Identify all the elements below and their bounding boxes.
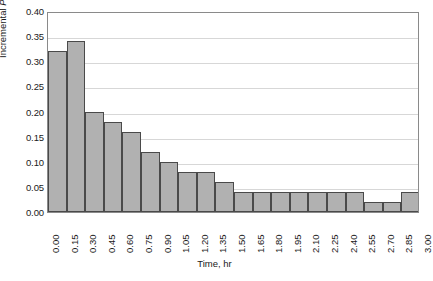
x-axis-tick-label: 2.10 xyxy=(311,235,321,254)
bar xyxy=(178,172,197,212)
y-axis-title-pre: Incremental xyxy=(0,6,8,58)
plot-area xyxy=(47,12,419,213)
x-axis-tick-label: 0.00 xyxy=(51,235,61,254)
bar xyxy=(271,192,290,212)
bar xyxy=(104,122,123,212)
x-axis-tick-label: 1.20 xyxy=(200,235,210,254)
x-axis-title: Time, hr xyxy=(0,258,429,269)
x-axis-tick-label: 0.15 xyxy=(70,235,80,254)
bar xyxy=(85,112,104,213)
bar xyxy=(401,192,419,212)
x-axis-tick-label: 2.70 xyxy=(386,235,396,254)
bar xyxy=(364,202,383,212)
x-axis-tick-label: 1.65 xyxy=(256,235,266,254)
bar xyxy=(383,202,402,212)
bar xyxy=(327,192,346,212)
y-axis-tick-label: 0.25 xyxy=(2,82,44,92)
y-axis-tick-label: 0.40 xyxy=(2,7,44,17)
x-axis-tick-label: 0.60 xyxy=(125,235,135,254)
y-axis-tick-label: 0.35 xyxy=(2,32,44,42)
bar xyxy=(234,192,253,212)
x-axis-tick-label: 1.35 xyxy=(218,235,228,254)
bar xyxy=(253,192,272,212)
y-axis-tick-label: 0.20 xyxy=(2,108,44,118)
x-axis-tick-label: 0.75 xyxy=(144,235,154,254)
bar xyxy=(160,162,179,212)
bar-series xyxy=(48,13,418,212)
bar xyxy=(215,182,234,212)
x-axis-tick-label: 0.45 xyxy=(107,235,117,254)
x-axis-tick-label: 1.95 xyxy=(293,235,303,254)
y-axis-tick-label: 0.05 xyxy=(2,183,44,193)
x-axis-tick-label: 1.80 xyxy=(274,235,284,254)
bar xyxy=(122,132,141,212)
y-axis-title: Incremental P, in. xyxy=(0,0,8,58)
y-axis-tick-label: 0.10 xyxy=(2,158,44,168)
x-axis-tick-label: 1.50 xyxy=(237,235,247,254)
y-axis-tick-label: 0.00 xyxy=(2,208,44,218)
bar xyxy=(67,41,86,212)
x-axis-tick-label: 2.85 xyxy=(404,235,414,254)
x-axis-tick-label: 0.90 xyxy=(163,235,173,254)
bar xyxy=(197,172,216,212)
bar xyxy=(346,192,365,212)
x-axis-tick-label: 0.30 xyxy=(88,235,98,254)
bar xyxy=(290,192,309,212)
y-axis-tick-label: 0.15 xyxy=(2,133,44,143)
bar xyxy=(308,192,327,212)
x-axis-tick-label: 2.25 xyxy=(330,235,340,254)
bar xyxy=(48,51,67,212)
x-axis-tick-label: 1.05 xyxy=(181,235,191,254)
x-axis-tick-label: 2.40 xyxy=(349,235,359,254)
y-axis-tick-label: 0.30 xyxy=(2,57,44,67)
x-axis: 0.000.150.300.450.600.750.901.051.201.35… xyxy=(47,215,419,255)
bar xyxy=(141,152,160,212)
x-axis-tick-label: 2.55 xyxy=(367,235,377,254)
x-axis-tick-label: 3.00 xyxy=(423,235,433,254)
y-axis-title-symbol: P xyxy=(0,0,8,6)
